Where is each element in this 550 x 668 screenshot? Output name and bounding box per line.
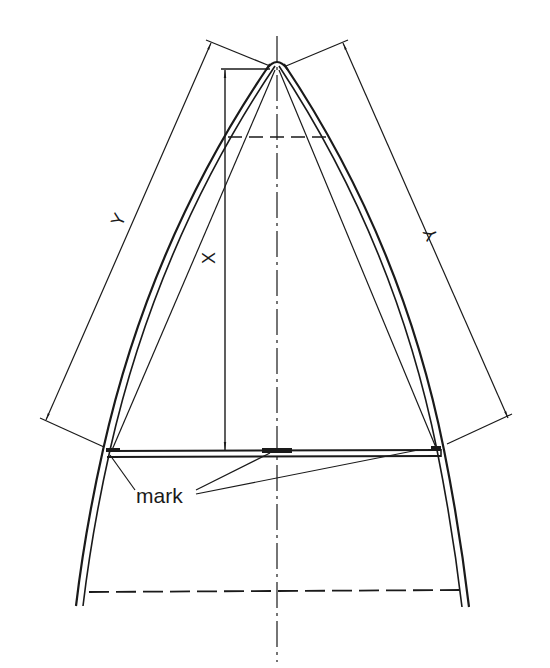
y-left-label: Y	[107, 210, 130, 229]
dimension-y-right	[286, 40, 512, 444]
x-label: X	[199, 252, 219, 264]
arch-left	[76, 64, 275, 606]
arch-right	[279, 64, 469, 607]
dimension-x	[221, 69, 270, 450]
y-right-label: Y	[419, 225, 442, 244]
bottom-dashed-line	[89, 590, 460, 592]
arch-drawing: X Y Y mark	[0, 0, 550, 668]
mark-label: mark	[136, 484, 183, 507]
dimension-y-left	[40, 40, 270, 447]
